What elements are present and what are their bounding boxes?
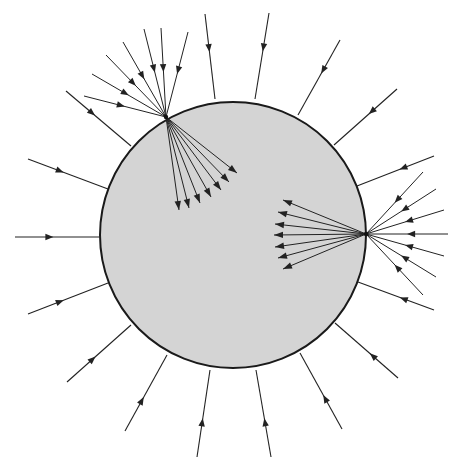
incoming-ray xyxy=(357,156,434,186)
converging-ray xyxy=(166,32,188,117)
converging-ray xyxy=(366,231,448,237)
converging-ray xyxy=(92,74,166,117)
converging-ray xyxy=(84,96,166,117)
converging-ray xyxy=(366,234,423,295)
arrowhead-icon xyxy=(160,64,166,72)
incoming-ray xyxy=(125,355,167,431)
emitter-point xyxy=(164,115,168,119)
converging-ray xyxy=(144,29,166,117)
arrowhead-icon xyxy=(399,164,408,170)
arrowhead-icon xyxy=(55,300,64,306)
incoming-ray xyxy=(300,353,342,429)
sphere xyxy=(100,102,366,368)
arrowhead-icon xyxy=(405,244,414,250)
converging-ray xyxy=(366,234,444,256)
arrowhead-icon xyxy=(138,71,145,80)
incoming-ray xyxy=(298,40,340,115)
arrowhead-icon xyxy=(120,89,129,96)
arrowhead-icon xyxy=(400,297,409,303)
arrowhead-icon xyxy=(150,64,156,73)
incoming-ray xyxy=(255,13,269,99)
arrowhead-icon xyxy=(407,231,415,237)
arrowhead-icon xyxy=(198,418,204,426)
emitter-point xyxy=(364,232,368,236)
incoming-ray xyxy=(67,325,131,382)
incoming-ray xyxy=(205,14,215,99)
incoming-ray xyxy=(256,370,271,457)
incoming-ray xyxy=(197,370,210,457)
incoming-ray xyxy=(28,283,108,314)
arrowhead-icon xyxy=(261,43,267,51)
converging-ray xyxy=(366,234,436,277)
arrowhead-icon xyxy=(401,256,409,263)
arrowhead-icon xyxy=(137,397,144,406)
incoming-ray xyxy=(15,234,101,240)
arrowhead-icon xyxy=(405,217,414,223)
arrowhead-icon xyxy=(401,204,409,211)
arrowhead-icon xyxy=(205,44,211,52)
diagram-canvas xyxy=(0,0,459,470)
sphere-ray-diagram xyxy=(0,0,459,470)
arrowhead-icon xyxy=(263,418,269,426)
incoming-ray xyxy=(334,89,397,145)
incoming-ray xyxy=(358,282,434,310)
sphere-body xyxy=(100,102,366,368)
incoming-ray xyxy=(28,159,108,189)
arrowhead-icon xyxy=(323,395,330,404)
arrowhead-icon xyxy=(45,234,53,240)
incoming-ray xyxy=(335,323,398,378)
arrowhead-icon xyxy=(55,167,64,173)
arrowhead-icon xyxy=(321,65,328,74)
